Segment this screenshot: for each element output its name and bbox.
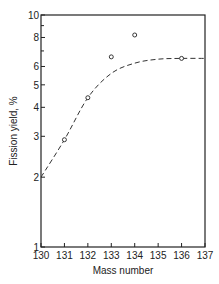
x-axis-ticks: 130131132133134135136137	[33, 243, 214, 261]
data-point-marker	[133, 33, 137, 37]
x-tick-label: 135	[150, 250, 167, 261]
y-tick-label: 10	[28, 10, 40, 21]
y-tick-label: 6	[33, 61, 39, 72]
x-tick-label: 132	[80, 250, 97, 261]
data-point-marker	[86, 96, 90, 100]
x-tick-label: 131	[56, 250, 73, 261]
data-point-marker	[62, 138, 66, 142]
y-tick-label: 8	[33, 32, 39, 43]
plot-frame	[41, 15, 205, 247]
y-tick-label: 5	[33, 80, 39, 91]
x-axis-label: Mass number	[93, 265, 154, 276]
x-tick-label: 134	[126, 250, 143, 261]
data-point-marker	[180, 56, 184, 60]
y-tick-label: 2	[33, 172, 39, 183]
fission-yield-chart: 130131132133134135136137 123456810 Mass …	[0, 0, 219, 284]
y-axis-ticks: 123456810	[28, 10, 45, 253]
x-tick-label: 136	[173, 250, 190, 261]
fitted-curve	[41, 58, 205, 177]
y-tick-label: 1	[33, 242, 39, 253]
data-point-marker	[109, 55, 113, 59]
y-tick-label: 3	[33, 131, 39, 142]
y-tick-label: 4	[33, 102, 39, 113]
x-tick-label: 137	[197, 250, 214, 261]
data-points	[62, 33, 183, 142]
y-axis-label: Fission yield, %	[8, 96, 19, 166]
x-tick-label: 133	[103, 250, 120, 261]
